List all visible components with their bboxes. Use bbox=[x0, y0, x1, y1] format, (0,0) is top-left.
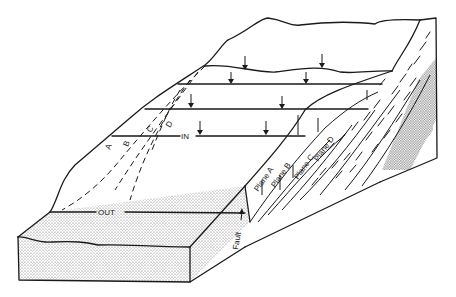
plane-labels: Plane A Plane B Plane C Plane D Fault bbox=[231, 134, 336, 250]
out-label-group: OUT bbox=[98, 208, 115, 217]
arrow-icon bbox=[303, 72, 309, 84]
arrow-icon bbox=[263, 121, 269, 135]
downthrown-block bbox=[18, 186, 250, 282]
fault-block-diagram: OUT IN A B C D bbox=[0, 0, 456, 297]
in-label: IN bbox=[181, 132, 189, 141]
fault-label: Fault bbox=[231, 231, 243, 251]
arrow-icon bbox=[228, 72, 234, 84]
arrow-icon bbox=[319, 54, 325, 68]
out-label: OUT bbox=[98, 208, 115, 217]
arrow-icon bbox=[188, 94, 194, 108]
trace-a-label: A bbox=[103, 142, 114, 151]
trace-d-label: D bbox=[164, 119, 175, 129]
plane-trace-labels: A B C D bbox=[103, 119, 174, 150]
trace-b-label: B bbox=[121, 140, 131, 148]
cross-section bbox=[245, 18, 437, 247]
arrow-icon bbox=[279, 96, 285, 109]
arrow-icon bbox=[197, 121, 203, 135]
